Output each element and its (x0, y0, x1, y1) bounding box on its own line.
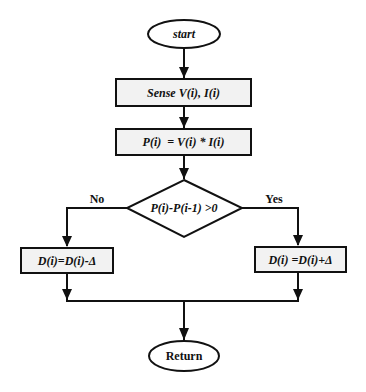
start-label: start (172, 27, 196, 41)
arrowhead-icon (179, 67, 189, 78)
arrowhead-icon (62, 236, 72, 247)
sense-process-box: Sense V(i), I(i) (116, 79, 251, 106)
power-process-box: P(i) = V(i) * I(i) (116, 129, 251, 155)
arrowhead-icon (179, 168, 189, 179)
arrowhead-icon (293, 235, 303, 246)
sense-label: Sense V(i), I(i) (147, 86, 220, 100)
decrease-process-box: D(i)=D(i)-Δ (21, 248, 113, 273)
decision-label: P(i)-P(i-1) >0 (150, 201, 217, 215)
yes-branch-line (242, 208, 298, 245)
arrowhead-icon (179, 117, 189, 128)
arrowhead-icon (293, 289, 303, 300)
increase-label: D(i) =D(i)+Δ (267, 253, 332, 267)
return-terminal: Return (149, 341, 219, 371)
no-branch-line (67, 208, 127, 246)
start-terminal: start (148, 20, 220, 48)
yes-label: Yes (265, 192, 283, 206)
arrowhead-icon (179, 328, 189, 340)
power-label: P(i) = V(i) * I(i) (143, 135, 225, 149)
flowchart-canvas: start Sense V(i), I(i) P(i) = V(i) * I(i… (0, 0, 366, 392)
decision-diamond: P(i)-P(i-1) >0 (127, 180, 242, 237)
decrease-label: D(i)=D(i)-Δ (37, 254, 96, 268)
return-label: Return (166, 349, 203, 363)
no-label: No (90, 192, 105, 206)
arrowhead-icon (62, 289, 72, 300)
increase-process-box: D(i) =D(i)+Δ (255, 247, 346, 272)
